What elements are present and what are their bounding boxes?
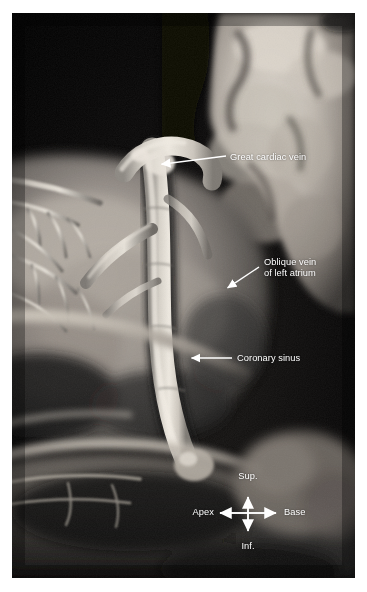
label-base: Base: [284, 507, 305, 518]
label-oblique-vein-line1: Oblique vein: [264, 257, 316, 268]
label-superior: Sup.: [238, 471, 257, 482]
label-oblique-vein-line2: of left atrium: [264, 268, 316, 279]
figure-anatomical-plate: Great cardiac vein Oblique vein of left …: [0, 0, 367, 592]
specimen-photograph: [12, 13, 355, 578]
specimen-rendering: [12, 13, 355, 578]
label-great-cardiac-vein: Great cardiac vein: [230, 152, 306, 163]
label-apex: Apex: [193, 507, 214, 518]
label-inferior: Inf.: [241, 541, 254, 552]
label-coronary-sinus: Coronary sinus: [237, 353, 300, 364]
